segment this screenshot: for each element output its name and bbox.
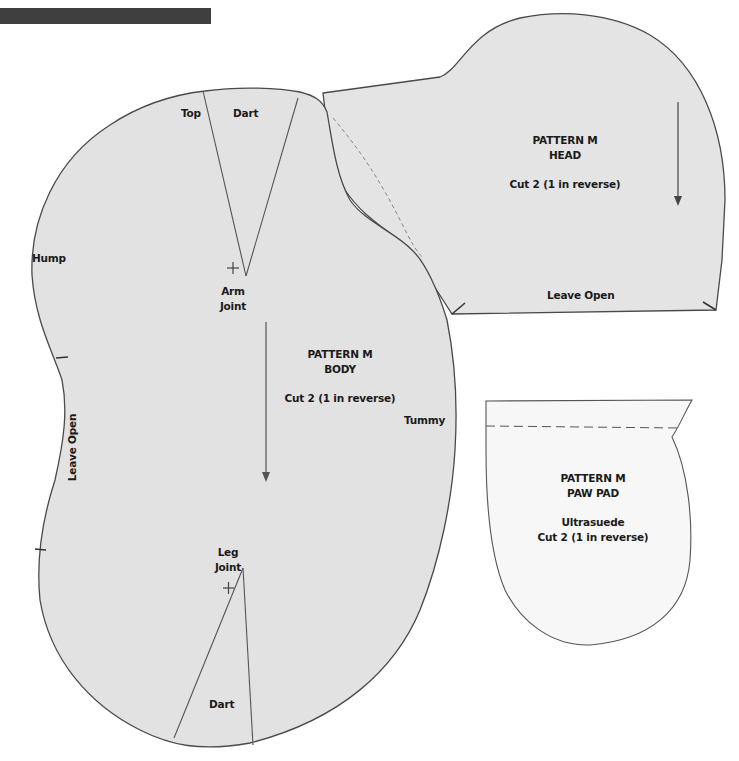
head-instruction: Cut 2 (1 in reverse): [500, 177, 630, 192]
body-label-leave-open: Leave Open: [65, 408, 80, 488]
paw-pad-name: PAW PAD: [528, 486, 658, 501]
notch-mark: [56, 357, 68, 358]
body-label-arm-joint: Arm Joint: [208, 284, 258, 314]
head-info-block: PATTERN M HEAD Cut 2 (1 in reverse): [500, 133, 630, 192]
body-label-top-dart: Dart: [233, 106, 258, 121]
paw-pad-info-block: PATTERN M PAW PAD Ultrasuede Cut 2 (1 in…: [528, 471, 658, 545]
body-name: BODY: [280, 362, 400, 377]
body-label-bottom-dart: Dart: [209, 697, 234, 712]
head-title: PATTERN M: [500, 133, 630, 148]
body-label-top: Top: [181, 106, 201, 121]
notch-mark: [35, 549, 46, 550]
body-info-block: PATTERN M BODY Cut 2 (1 in reverse): [280, 347, 400, 406]
body-instruction: Cut 2 (1 in reverse): [280, 391, 400, 406]
head-name: HEAD: [500, 148, 630, 163]
body-label-leg-joint: Leg Joint: [203, 545, 253, 575]
body-label-hump: Hump: [32, 251, 66, 266]
head-label-leave-open: Leave Open: [547, 288, 615, 303]
body-label-tummy: Tummy: [404, 413, 445, 428]
paw-pad-material: Ultrasuede: [528, 515, 658, 530]
body-title: PATTERN M: [280, 347, 400, 362]
paw-pad-instruction: Cut 2 (1 in reverse): [528, 530, 658, 545]
paw-pad-title: PATTERN M: [528, 471, 658, 486]
